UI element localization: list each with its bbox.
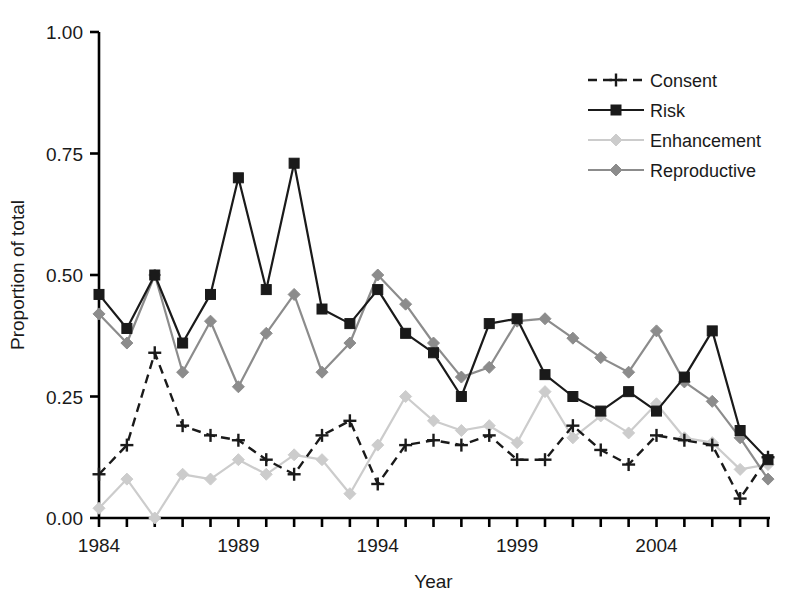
x-tick-label: 1999 (496, 535, 538, 556)
data-point (176, 419, 189, 432)
data-point (512, 314, 522, 324)
y-tick-label: 1.00 (46, 22, 83, 43)
data-point (594, 443, 607, 456)
data-point (455, 425, 467, 437)
data-point (122, 323, 132, 333)
data-point (596, 406, 606, 416)
data-point (455, 439, 468, 452)
data-point (178, 338, 188, 348)
data-point (401, 328, 411, 338)
legend-item-enhancement[interactable]: Enhancement (588, 131, 761, 151)
data-point (763, 455, 773, 465)
data-point (345, 319, 355, 329)
data-point (427, 434, 440, 447)
data-point (735, 426, 745, 436)
data-point (261, 285, 271, 295)
data-point (372, 439, 384, 451)
series-enhancement (93, 386, 774, 524)
data-point (373, 285, 383, 295)
data-point (623, 366, 635, 378)
x-tick-label: 2004 (635, 535, 678, 556)
data-point (371, 477, 384, 490)
data-point (429, 348, 439, 358)
data-point (679, 372, 689, 382)
data-point (707, 326, 717, 336)
data-point (539, 386, 551, 398)
legend-item-risk[interactable]: Risk (588, 101, 686, 121)
series-line (99, 392, 768, 518)
line-chart-svg: 0.000.250.500.751.0019841989199419992004… (0, 0, 790, 597)
legend-item-consent[interactable]: Consent (588, 71, 717, 91)
legend-marker (611, 105, 621, 115)
y-axis-title: Proportion of total (7, 200, 28, 350)
data-point (206, 289, 216, 299)
data-point (343, 414, 356, 427)
y-tick-label: 0.25 (46, 387, 83, 408)
data-point (232, 381, 244, 393)
data-point (762, 473, 774, 485)
legend-marker (610, 74, 623, 87)
data-point (568, 392, 578, 402)
x-tick-label: 1994 (357, 535, 400, 556)
data-point (232, 434, 245, 447)
data-point (148, 346, 161, 359)
data-point (177, 468, 189, 480)
data-point (651, 325, 663, 337)
data-point (483, 429, 496, 442)
series-reproductive (93, 269, 774, 485)
legend: ConsentRiskEnhancementReproductive (588, 71, 761, 181)
data-point (652, 406, 662, 416)
legend-item-reproductive[interactable]: Reproductive (588, 161, 756, 181)
data-point (624, 387, 634, 397)
legend-label: Risk (650, 101, 686, 121)
legend-marker (610, 134, 622, 146)
y-tick-label: 0.50 (46, 265, 83, 286)
data-point (734, 492, 747, 505)
x-tick-label: 1984 (78, 535, 121, 556)
data-point (317, 304, 327, 314)
data-point (483, 361, 495, 373)
chart-figure: 0.000.250.500.751.0019841989199419992004… (0, 0, 790, 597)
data-point (204, 429, 217, 442)
data-point (622, 458, 635, 471)
legend-label: Enhancement (650, 131, 761, 151)
x-axis-title: Year (414, 571, 453, 592)
data-point (289, 158, 299, 168)
y-tick-label: 0.00 (46, 508, 83, 529)
legend-label: Consent (650, 71, 717, 91)
data-point (150, 270, 160, 280)
data-point (511, 437, 523, 449)
legend-label: Reproductive (650, 161, 756, 181)
data-point (484, 319, 494, 329)
data-point (177, 366, 189, 378)
data-point (288, 468, 301, 481)
legend-marker (610, 164, 622, 176)
data-point (456, 392, 466, 402)
series-line (99, 275, 768, 479)
data-point (233, 173, 243, 183)
data-point (94, 289, 104, 299)
x-tick-label: 1989 (217, 535, 259, 556)
data-point (205, 315, 217, 327)
data-point (540, 370, 550, 380)
y-tick-label: 0.75 (46, 144, 83, 165)
